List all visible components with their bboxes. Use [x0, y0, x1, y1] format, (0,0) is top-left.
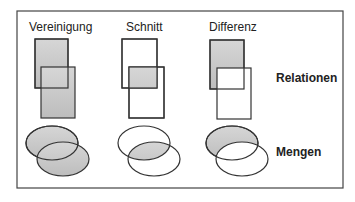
union-relation: [35, 39, 75, 118]
difference-relation: [210, 40, 251, 119]
intersection-relation: [122, 39, 164, 118]
column-label-difference: Differenz: [209, 20, 257, 34]
intersection-sets: [118, 126, 180, 176]
difference-sets: [206, 126, 268, 176]
column-label-union: Vereinigung: [29, 20, 92, 34]
row-label-relations: Relationen: [276, 71, 337, 85]
column-label-intersection: Schnitt: [126, 20, 163, 34]
row-label-sets: Mengen: [276, 145, 321, 159]
union-sets: [26, 126, 89, 176]
